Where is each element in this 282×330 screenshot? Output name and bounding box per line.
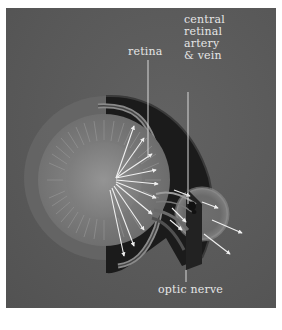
artery-label-line-4: & vein bbox=[184, 50, 225, 62]
retina-label: retina bbox=[128, 46, 163, 58]
lens bbox=[66, 142, 142, 218]
eye-diagram-panel: retina central retinal artery & vein opt… bbox=[6, 8, 276, 308]
optic-nerve-label: optic nerve bbox=[158, 284, 223, 296]
central-retinal-artery-vein-label: central retinal artery & vein bbox=[184, 14, 225, 62]
